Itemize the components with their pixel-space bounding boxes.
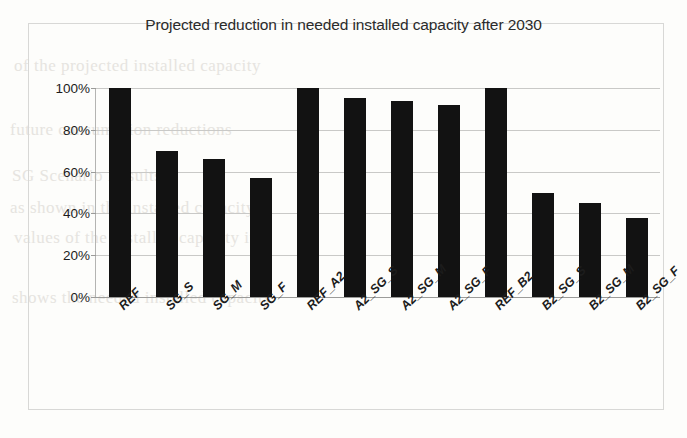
bar-A2_SG_S [344, 98, 366, 297]
gridline-40% [96, 213, 660, 214]
bar-REF [109, 88, 131, 297]
y-tick-mark [91, 172, 96, 173]
y-tick-label: 100% [36, 81, 90, 96]
chart-title: Projected reduction in needed installed … [0, 16, 687, 34]
y-tick-mark [91, 88, 96, 89]
y-tick-label: 20% [36, 248, 90, 263]
bar-B2_SG_F [626, 218, 648, 297]
y-tick-mark [91, 297, 96, 298]
y-tick-mark [91, 213, 96, 214]
bar-SG_M [203, 159, 225, 297]
y-tick-label: 80% [36, 122, 90, 137]
gridline-60% [96, 172, 660, 173]
y-tick-label: 40% [36, 206, 90, 221]
bar-SG_F [250, 178, 272, 297]
y-tick-mark [91, 255, 96, 256]
bar-B2_SG_M [579, 203, 601, 297]
gridline-100% [96, 88, 660, 89]
gridline-80% [96, 130, 660, 131]
bar-SG_S [156, 151, 178, 297]
y-tick-label: 0% [36, 290, 90, 305]
y-tick-label: 60% [36, 164, 90, 179]
bar-REF_A2 [297, 88, 319, 297]
y-tick-mark [91, 130, 96, 131]
y-axis-labels: 0%20%40%60%80%100% [30, 88, 90, 297]
bar-B2_SG_S [532, 193, 554, 298]
gridline-20% [96, 255, 660, 256]
